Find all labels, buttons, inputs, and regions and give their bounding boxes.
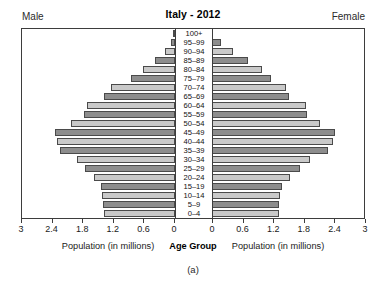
female-bar-row — [211, 47, 364, 56]
age-group-label: 95–99 — [176, 38, 212, 47]
x-tick-label-left: 1.8 — [76, 224, 89, 234]
female-bar-row — [211, 155, 364, 164]
male-bar — [77, 156, 175, 163]
axis-titles: Population (in millions) Age Group Popul… — [21, 241, 365, 257]
age-group-label: 0–4 — [176, 209, 212, 218]
figure-caption: (a) — [0, 264, 386, 275]
male-bar — [94, 174, 175, 181]
x-tick-label-left: 0.6 — [137, 224, 150, 234]
x-tick-mark — [82, 219, 83, 223]
male-bar-row — [22, 119, 175, 128]
x-tick-mark — [113, 219, 114, 223]
age-group-label: 75–79 — [176, 74, 212, 83]
male-bars-panel — [22, 29, 175, 218]
female-bar — [211, 183, 282, 190]
x-tick-mark — [21, 219, 22, 223]
female-bar-row — [211, 182, 364, 191]
age-group-axis: 100+95–9990–9485–8980–8475–7970–7465–696… — [175, 29, 213, 218]
female-bar-row — [211, 101, 364, 110]
male-bar-row — [22, 164, 175, 173]
male-bar — [143, 66, 175, 73]
female-bar-row — [211, 65, 364, 74]
age-group-label: 85–89 — [176, 56, 212, 65]
male-bar-row — [22, 56, 175, 65]
x-tick-mark — [143, 219, 144, 223]
female-bar-row — [211, 74, 364, 83]
female-bar — [211, 138, 333, 145]
male-bar-row — [22, 137, 175, 146]
age-group-label: 90–94 — [176, 47, 212, 56]
male-bar-row — [22, 74, 175, 83]
center-axis-title: Age Group — [169, 241, 216, 251]
male-bar-row — [22, 29, 175, 38]
female-bar-row — [211, 119, 364, 128]
female-bar-row — [211, 209, 364, 218]
x-tick-mark — [243, 219, 244, 223]
x-tick-label-right: 3 — [362, 224, 367, 234]
x-tick-mark — [365, 219, 366, 223]
plot-frame: 100+95–9990–9485–8980–8475–7970–7465–696… — [21, 28, 365, 219]
age-group-label: 5–9 — [176, 200, 212, 209]
age-group-label: 25–29 — [176, 164, 212, 173]
female-bar — [211, 201, 279, 208]
population-pyramid-figure: Male Italy - 2012 Female 100+95–9990–948… — [0, 0, 386, 290]
male-bar — [101, 183, 175, 190]
female-bar — [211, 75, 271, 82]
x-tick-label-right: 1.2 — [267, 224, 280, 234]
male-bar-row — [22, 200, 175, 209]
female-bar — [211, 147, 328, 154]
female-bar — [211, 120, 320, 127]
age-group-label: 40–44 — [176, 137, 212, 146]
age-group-label: 60–64 — [176, 101, 212, 110]
male-bar-row — [22, 47, 175, 56]
female-bar-row — [211, 146, 364, 155]
age-group-label: 10–14 — [176, 191, 212, 200]
male-bar — [102, 192, 175, 199]
female-bar-row — [211, 29, 364, 38]
female-bar-row — [211, 137, 364, 146]
male-bar-row — [22, 101, 175, 110]
male-bar-row — [22, 83, 175, 92]
male-bar — [103, 201, 175, 208]
x-tick-mark — [212, 219, 213, 223]
age-group-label: 50–54 — [176, 119, 212, 128]
male-bar — [71, 120, 175, 127]
male-bar — [85, 165, 175, 172]
male-bar — [57, 138, 175, 145]
female-bar — [211, 111, 307, 118]
age-group-label: 55–59 — [176, 110, 212, 119]
male-bar — [60, 147, 175, 154]
x-axis: 32.41.81.20.6000.61.21.82.43 — [21, 219, 365, 243]
x-tick-mark — [52, 219, 53, 223]
female-bar — [211, 192, 280, 199]
male-bar — [55, 129, 175, 136]
male-bar — [131, 75, 175, 82]
x-tick-label-left: 0 — [171, 224, 176, 234]
female-bar-row — [211, 110, 364, 119]
female-bar — [211, 210, 279, 217]
female-bar — [211, 174, 290, 181]
female-bar-row — [211, 173, 364, 182]
x-tick-label-right: 1.8 — [298, 224, 311, 234]
female-bar-row — [211, 83, 364, 92]
male-bar-row — [22, 146, 175, 155]
x-tick-label-left: 1.2 — [107, 224, 120, 234]
female-bar-row — [211, 191, 364, 200]
x-tick-label-right: 0.6 — [236, 224, 249, 234]
female-bars-panel — [211, 29, 364, 218]
female-bar-row — [211, 164, 364, 173]
x-tick-label-left: 2.4 — [45, 224, 58, 234]
chart-title: Italy - 2012 — [0, 8, 386, 20]
x-tick-label-right: 0 — [209, 224, 214, 234]
male-bar-row — [22, 38, 175, 47]
male-bar-row — [22, 65, 175, 74]
right-axis-title: Population (in millions) — [232, 241, 324, 251]
female-bar — [211, 57, 248, 64]
female-side-label: Female — [332, 11, 365, 22]
female-bar — [211, 165, 300, 172]
female-bar — [211, 156, 310, 163]
x-tick-mark — [304, 219, 305, 223]
female-bar — [211, 93, 289, 100]
left-axis-title: Population (in millions) — [62, 241, 154, 251]
male-bar — [155, 57, 175, 64]
